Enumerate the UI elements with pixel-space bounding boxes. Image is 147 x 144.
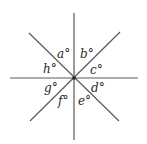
angle-label-c: c° [90,63,103,77]
angle-label-g: g° [44,81,58,95]
intersection-point [72,76,76,80]
angle-label-f: f° [57,94,68,108]
angle-label-e: e° [78,94,91,108]
angle-diagram: a° b° c° d° e° f° g° h° [0,0,147,144]
diagonal-up-line [30,32,120,121]
angle-label-a: a° [57,47,70,61]
angle-label-b: b° [80,47,94,61]
angle-label-h: h° [43,62,57,76]
angle-label-d: d° [91,81,105,95]
